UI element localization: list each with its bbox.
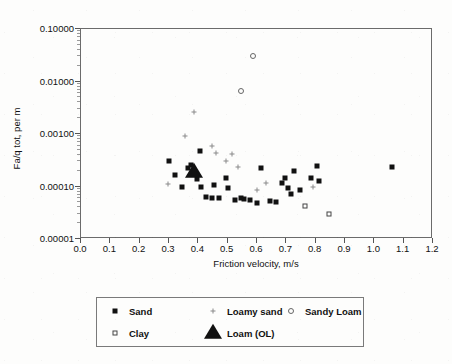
legend-marker-swatch [283, 303, 299, 319]
legend-item[interactable]: Loamy sand [205, 300, 282, 322]
data-point-sand [291, 168, 296, 173]
x-axis-tick-mark [80, 238, 81, 243]
data-point-sand [389, 165, 394, 170]
data-point-sand [224, 176, 229, 181]
x-axis-tick-mark [403, 238, 404, 243]
y-axis-tick-label: 0.00001 [0, 233, 74, 244]
plot-frame [80, 28, 432, 238]
data-point-sandy-loam [238, 88, 244, 94]
data-point-sand [241, 196, 246, 201]
y-axis-tick-label: 0.10000 [0, 23, 74, 34]
legend-item-label: Loam (OL) [227, 328, 275, 339]
legend-item-label: Sand [129, 306, 152, 317]
x-axis-tick-mark [256, 238, 257, 243]
legend-item-label: Sandy Loam [305, 306, 362, 317]
x-axis-tick-label: 1.2 [412, 243, 452, 254]
legend-marker-small-plus-icon [211, 309, 216, 314]
data-point-loamy-sand [263, 181, 268, 186]
data-point-sand [180, 184, 185, 189]
legend-marker-swatch [205, 303, 221, 319]
legend-item[interactable]: Clay [107, 322, 149, 344]
x-axis-tick-mark [109, 238, 110, 243]
plot-area [81, 29, 431, 237]
x-axis-tick-mark [285, 238, 286, 243]
data-point-sand [216, 196, 221, 201]
data-point-sand [279, 181, 284, 186]
data-point-sand [233, 198, 238, 203]
data-point-sand [172, 173, 177, 178]
legend-item[interactable]: Loam (OL) [205, 322, 275, 344]
data-point-clay [303, 204, 308, 209]
x-axis-tick-mark [344, 238, 345, 243]
data-point-sand [316, 179, 321, 184]
x-axis-tick-mark [432, 238, 433, 243]
legend-item-label: Loamy sand [227, 306, 282, 317]
data-point-sand [212, 183, 217, 188]
y-axis-title: Fa/q tot, per m [11, 59, 22, 219]
legend-marker-swatch [107, 303, 123, 319]
data-point-sandy-loam [250, 53, 256, 59]
data-point-loam-ol [185, 163, 203, 178]
data-point-sand [297, 188, 302, 193]
data-point-sand [315, 164, 320, 169]
data-point-loamy-sand [213, 151, 218, 156]
data-point-loamy-sand [230, 152, 235, 157]
legend-marker-open-circle-icon [288, 308, 294, 314]
x-axis-title: Friction velocity, m/s [80, 258, 432, 269]
data-point-sand [285, 186, 290, 191]
legend-item[interactable]: Sandy Loam [283, 300, 362, 322]
scatter-chart-figure: 0.100000.010000.001000.000100.00001 Fa/q… [0, 0, 452, 364]
data-point-sand [225, 186, 230, 191]
data-point-sand [199, 184, 204, 189]
legend-marker-swatch [107, 325, 123, 341]
x-axis-tick-mark [315, 238, 316, 243]
data-point-sand [282, 176, 287, 181]
x-axis-tick-mark [197, 238, 198, 243]
legend-marker-filled-square-icon [113, 309, 118, 314]
x-axis-tick-mark [139, 238, 140, 243]
data-point-sand [309, 176, 314, 181]
data-point-loamy-sand [224, 158, 229, 163]
x-axis-tick-mark [227, 238, 228, 243]
data-point-sand [197, 148, 202, 153]
legend-marker-swatch [205, 325, 221, 341]
x-axis-tick-mark [168, 238, 169, 243]
data-point-sand [203, 195, 208, 200]
data-point-loamy-sand [165, 182, 170, 187]
data-point-sand [209, 196, 214, 201]
data-point-sand [288, 191, 293, 196]
data-point-clay [326, 211, 331, 216]
data-point-sand [268, 199, 273, 204]
data-point-loamy-sand [209, 143, 214, 148]
data-point-sand [167, 159, 172, 164]
data-point-loamy-sand [255, 188, 260, 193]
legend-marker-filled-triangle-icon [204, 324, 222, 339]
legend-item[interactable]: Sand [107, 300, 152, 322]
chart-legend: SandLoamy sandSandy LoamClayLoam (OL) [96, 297, 364, 347]
data-point-loamy-sand [235, 165, 240, 170]
legend-item-label: Clay [129, 328, 149, 339]
data-point-loamy-sand [310, 184, 315, 189]
data-point-sand [247, 198, 252, 203]
x-axis-tick-mark [373, 238, 374, 243]
data-point-sand [259, 165, 264, 170]
data-point-loamy-sand [183, 134, 188, 139]
data-point-loamy-sand [191, 110, 196, 115]
data-point-sand [255, 201, 260, 206]
data-point-sand [274, 200, 279, 205]
legend-marker-open-square-icon [113, 331, 118, 336]
